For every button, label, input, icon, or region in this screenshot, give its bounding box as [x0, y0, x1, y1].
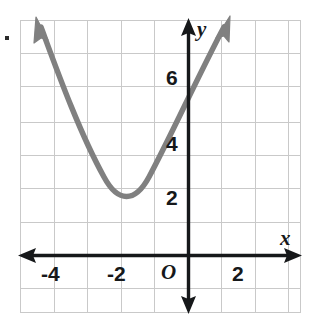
y-tick-label-2: 2	[166, 187, 178, 208]
x-tick-label-minus-2: -2	[107, 263, 126, 284]
y-axis	[181, 18, 196, 314]
x-axis	[18, 248, 302, 263]
origin-label: O	[161, 262, 176, 283]
parabola-curve	[34, 16, 230, 197]
x-tick-label-minus-4: -4	[41, 263, 60, 284]
y-tick-label-6: 6	[166, 67, 178, 88]
y-axis-label: y	[197, 19, 206, 40]
x-tick-label-2: 2	[232, 263, 244, 284]
y-tick-label-4: 4	[166, 133, 178, 154]
x-axis-label: x	[280, 228, 291, 249]
parabola-graph-figure: 6 4 2 -4 -2 2 O y x	[0, 0, 311, 320]
